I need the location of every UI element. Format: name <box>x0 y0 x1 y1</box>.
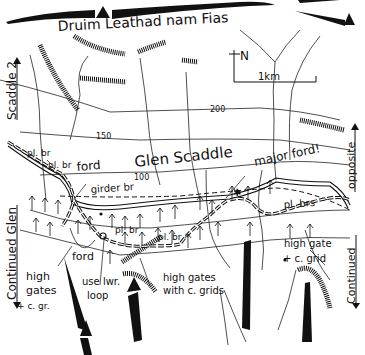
label-pl-br: pl. br <box>27 148 51 158</box>
scale-bar: 1km <box>234 71 316 82</box>
label-ford: ford <box>76 158 101 174</box>
edge-label-scaddle: Scaddle 2 <box>5 61 19 120</box>
route-map: Druim Leathad nam Fias N 1km <box>0 0 365 355</box>
edge-label-continued: Continued <box>345 248 358 304</box>
arrow-up-icon <box>351 123 359 130</box>
contour-label-200: 200 <box>210 105 225 114</box>
label-cattle-grid: + c. grid <box>283 253 326 264</box>
edge-label-continued-glen: Continued Glen <box>5 207 19 300</box>
valley-label: Glen Scaddle <box>134 143 234 171</box>
contour-label-100: 100 <box>134 173 149 182</box>
label-high-gates: gates <box>26 284 57 297</box>
label-high-gate: high gate <box>284 238 332 249</box>
north-arrow: N <box>229 49 249 82</box>
label-use-lower-loop: loop <box>87 290 108 301</box>
label-pl-br: pl. br <box>48 160 72 170</box>
edge-right: opposite Continued <box>345 123 360 309</box>
label-high-gates-cattle-grids: high gates <box>163 272 216 283</box>
contour-label-150: 150 <box>96 132 111 141</box>
label-ford: ford <box>72 250 94 263</box>
label-high-gates-cattle-grids: with c. grids <box>163 285 224 296</box>
label-use-lower-loop: use lwr. <box>82 276 120 287</box>
label-girder-bridge: girder br <box>90 181 135 195</box>
scale-label: 1km <box>258 71 280 82</box>
label-high-gates: high <box>26 270 50 283</box>
summit-icon <box>344 13 355 25</box>
label-pl-br: pl. br <box>115 225 139 235</box>
label-pl-brs: pl. brs <box>283 197 315 210</box>
label-cattle-grid: + c. gr. <box>17 301 50 311</box>
edge-label-opposite: opposite <box>345 141 358 189</box>
label-major-ford: major ford! <box>253 141 322 169</box>
north-label: N <box>240 49 249 63</box>
label-pl-br: pl. br <box>158 232 182 242</box>
edge-left: Scaddle 2 Continued Glen <box>5 57 21 309</box>
point-marker-icon <box>99 212 102 215</box>
map-canvas: Druim Leathad nam Fias N 1km <box>0 0 365 355</box>
